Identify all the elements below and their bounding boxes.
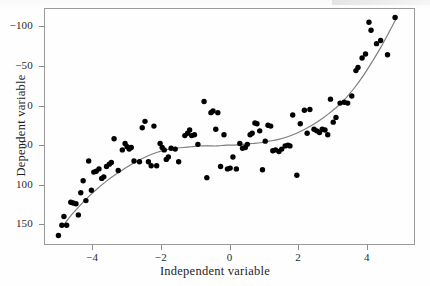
x-tick-label: 0 [215, 252, 245, 263]
data-point [140, 125, 145, 130]
data-point [148, 163, 153, 168]
data-point [322, 127, 327, 132]
data-point [64, 222, 69, 227]
y-tick-mark [39, 224, 44, 225]
data-point [176, 159, 181, 164]
data-point [73, 201, 78, 206]
data-point [345, 100, 350, 105]
data-point [80, 178, 85, 183]
x-tick-mark [298, 245, 299, 250]
data-point [76, 212, 81, 217]
data-point [101, 174, 106, 179]
data-point [201, 99, 206, 104]
data-point [349, 93, 354, 98]
x-axis-label: Independent variable [0, 264, 430, 279]
y-tick-label: −100 [0, 20, 33, 31]
data-point [96, 166, 101, 171]
data-point [257, 128, 262, 133]
data-point [307, 107, 312, 112]
data-point [392, 15, 397, 20]
data-point [173, 146, 178, 151]
data-point [221, 132, 226, 137]
data-point [151, 123, 156, 128]
data-point [268, 123, 273, 128]
data-point [195, 142, 200, 147]
data-point [333, 115, 338, 120]
data-points [44, 8, 415, 245]
data-point [109, 160, 114, 165]
data-point [328, 96, 333, 101]
data-point [249, 131, 254, 136]
x-tick-mark [230, 245, 231, 250]
data-point [78, 190, 83, 195]
data-point [166, 154, 171, 159]
data-point [287, 143, 292, 148]
data-point [298, 121, 303, 126]
data-point [204, 175, 209, 180]
data-point [142, 119, 147, 124]
y-tick-mark [39, 106, 44, 107]
data-point [86, 158, 91, 163]
data-point [263, 138, 268, 143]
data-point [213, 127, 218, 132]
data-point [368, 27, 373, 32]
data-point [137, 159, 142, 164]
data-point [378, 38, 383, 43]
data-point [129, 145, 134, 150]
data-point [304, 131, 309, 136]
x-tick-label: −2 [146, 252, 176, 263]
data-point [355, 65, 360, 70]
x-tick-mark [92, 245, 93, 250]
x-tick-label: 2 [283, 252, 313, 263]
data-point [245, 142, 250, 147]
data-point [260, 167, 265, 172]
data-point [192, 132, 197, 137]
data-point [89, 188, 94, 193]
data-point [331, 119, 336, 124]
data-point [227, 165, 232, 170]
y-tick-mark [39, 145, 44, 146]
data-point [215, 110, 220, 115]
plot-area [44, 8, 415, 245]
data-point [154, 163, 159, 168]
data-point [187, 127, 192, 132]
data-point [237, 141, 242, 146]
x-tick-label: 4 [352, 252, 382, 263]
y-tick-label: 150 [0, 218, 33, 229]
data-point [294, 173, 299, 178]
x-tick-label: −4 [77, 252, 107, 263]
data-point [325, 132, 330, 137]
data-point [56, 233, 61, 238]
x-tick-mark [367, 245, 368, 250]
data-point [234, 166, 239, 171]
data-point [162, 147, 167, 152]
data-point [218, 164, 223, 169]
y-tick-mark [39, 66, 44, 67]
data-point [120, 147, 125, 152]
data-point [59, 222, 64, 227]
data-point [131, 158, 136, 163]
y-axis-label: Dependent variable [14, 51, 29, 201]
data-point [61, 214, 66, 219]
data-point [83, 198, 88, 203]
data-point [290, 112, 295, 117]
data-point [111, 136, 116, 141]
data-point [230, 154, 235, 159]
data-point [116, 168, 121, 173]
scan-artifact [332, 0, 430, 5]
data-point [363, 51, 368, 56]
data-point [385, 52, 390, 57]
data-point [302, 108, 307, 113]
y-tick-mark [39, 185, 44, 186]
data-point [210, 108, 215, 113]
x-tick-mark [161, 245, 162, 250]
y-tick-mark [39, 26, 44, 27]
data-point [366, 20, 371, 25]
data-point [254, 121, 259, 126]
scatter-plot-figure: 150100500−50−100 −4−2024 Independent var… [0, 0, 430, 286]
